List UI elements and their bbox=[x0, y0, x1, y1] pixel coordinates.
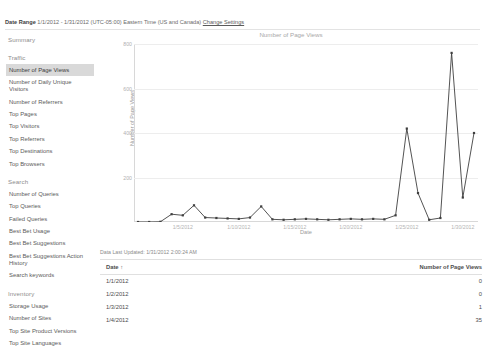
sidebar-item-top-referrers[interactable]: Top Referrers bbox=[6, 133, 94, 145]
chart-data-point[interactable] bbox=[249, 216, 251, 218]
chart-data-point[interactable] bbox=[271, 218, 273, 220]
sidebar-item-number-of-daily-unique-visitors[interactable]: Number of Daily Unique Visitors bbox=[6, 76, 94, 96]
column-header-page-views[interactable]: Number of Page Views bbox=[396, 264, 482, 270]
sidebar-item-number-of-sites[interactable]: Number of Sites bbox=[6, 313, 94, 325]
chart-data-point[interactable] bbox=[283, 219, 285, 221]
page-views-table: Date ↑ Number of Page Views 1/1/201201/2… bbox=[100, 259, 482, 326]
sidebar-heading-summary: Summary bbox=[6, 33, 94, 46]
chart-data-point[interactable] bbox=[439, 217, 441, 219]
sidebar-item-best-bet-suggestions[interactable]: Best Bet Suggestions bbox=[6, 238, 94, 250]
chart-data-point[interactable] bbox=[350, 218, 352, 220]
cell-page-views: 0 bbox=[396, 291, 482, 297]
chart-data-point[interactable] bbox=[148, 221, 150, 222]
chart-title: Number of Page Views bbox=[100, 31, 482, 38]
chart-y-tick-label: 600 bbox=[108, 86, 132, 92]
sidebar-heading-traffic: Traffic bbox=[6, 51, 94, 64]
chart-data-point[interactable] bbox=[361, 218, 363, 220]
date-range-bar: Date Range 1/1/2012 - 1/31/2012 (UTC-05:… bbox=[5, 16, 480, 29]
sidebar-item-top-destinations[interactable]: Top Destinations bbox=[6, 146, 94, 158]
chart-data-point[interactable] bbox=[473, 132, 475, 134]
sidebar-item-number-of-referrers[interactable]: Number of Referrers bbox=[6, 96, 94, 108]
chart-line bbox=[138, 53, 474, 222]
chart-data-point[interactable] bbox=[171, 213, 173, 215]
sidebar-item-best-bet-suggestions-action-history[interactable]: Best Bet Suggestions Action History bbox=[6, 250, 94, 270]
sidebar-item-search-keywords[interactable]: Search keywords bbox=[6, 270, 94, 282]
sidebar-item-best-bet-usage[interactable]: Best Bet Usage bbox=[6, 226, 94, 238]
chart-data-point[interactable] bbox=[137, 221, 139, 222]
sidebar-item-top-queries[interactable]: Top Queries bbox=[6, 201, 94, 213]
chart-data-point[interactable] bbox=[238, 218, 240, 220]
table-body: 1/1/201201/2/201201/3/201211/4/201235 bbox=[100, 275, 482, 326]
cell-date: 1/4/2012 bbox=[100, 317, 396, 323]
chart-data-point[interactable] bbox=[294, 218, 296, 220]
date-range-label: Date Range bbox=[5, 19, 36, 25]
data-last-updated: Data Last Updated: 1/31/2012 2:00:24 AM bbox=[100, 249, 197, 255]
sidebar-item-failed-queries[interactable]: Failed Queries bbox=[6, 213, 94, 225]
sidebar-item-number-of-page-views[interactable]: Number of Page Views bbox=[6, 64, 94, 76]
change-settings-link[interactable]: Change Settings bbox=[203, 19, 244, 25]
chart-data-point[interactable] bbox=[316, 218, 318, 220]
cell-date: 1/3/2012 bbox=[100, 304, 396, 310]
chart-series-page-views bbox=[134, 44, 478, 222]
chart-plot-area: 2004006008001/5/20121/10/20121/15/20121/… bbox=[134, 44, 478, 222]
header-divider bbox=[5, 29, 480, 30]
chart-data-point[interactable] bbox=[462, 196, 464, 198]
sidebar-heading-inventory: Inventory bbox=[6, 287, 94, 300]
sidebar-item-top-site-languages[interactable]: Top Site Languages bbox=[6, 337, 94, 349]
chart-data-point[interactable] bbox=[215, 217, 217, 219]
chart-y-tick-label: 400 bbox=[108, 130, 132, 136]
chart-data-point[interactable] bbox=[372, 218, 374, 220]
chart-data-point[interactable] bbox=[406, 127, 408, 129]
cell-page-views: 0 bbox=[396, 278, 482, 284]
sidebar-item-top-pages[interactable]: Top Pages bbox=[6, 108, 94, 120]
chart-x-axis-label: Date bbox=[134, 229, 478, 235]
cell-date: 1/1/2012 bbox=[100, 278, 396, 284]
chart-data-point[interactable] bbox=[417, 192, 419, 194]
column-header-date[interactable]: Date ↑ bbox=[100, 264, 396, 270]
page-views-chart: Number of Page Views Number of Page View… bbox=[100, 31, 482, 243]
chart-data-point[interactable] bbox=[395, 214, 397, 216]
table-row: 1/2/20120 bbox=[100, 288, 482, 301]
chart-data-point[interactable] bbox=[260, 205, 262, 207]
sidebar-item-number-of-queries[interactable]: Number of Queries bbox=[6, 188, 94, 200]
cell-date: 1/2/2012 bbox=[100, 291, 396, 297]
chart-data-point[interactable] bbox=[451, 52, 453, 54]
sidebar-nav: SummaryTrafficNumber of Page ViewsNumber… bbox=[6, 33, 94, 350]
chart-y-tick-label: 200 bbox=[108, 175, 132, 181]
chart-y-tick-label: 800 bbox=[108, 41, 132, 47]
table-row: 1/1/20120 bbox=[100, 275, 482, 288]
chart-data-point[interactable] bbox=[327, 219, 329, 221]
chart-data-point[interactable] bbox=[383, 218, 385, 220]
sidebar-item-top-browsers[interactable]: Top Browsers bbox=[6, 158, 94, 170]
table-header-row: Date ↑ Number of Page Views bbox=[100, 260, 482, 274]
chart-data-point[interactable] bbox=[339, 218, 341, 220]
table-row: 1/3/20121 bbox=[100, 301, 482, 314]
chart-data-point[interactable] bbox=[193, 204, 195, 206]
sidebar-item-storage-usage[interactable]: Storage Usage bbox=[6, 300, 94, 312]
chart-data-point[interactable] bbox=[305, 218, 307, 220]
sidebar-item-top-site-product-versions[interactable]: Top Site Product Versions bbox=[6, 325, 94, 337]
date-range-value: 1/1/2012 - 1/31/2012 (UTC-05:00) Eastern… bbox=[37, 19, 201, 25]
chart-data-point[interactable] bbox=[159, 221, 161, 222]
chart-data-point[interactable] bbox=[204, 216, 206, 218]
sidebar-heading-search: Search bbox=[6, 175, 94, 188]
table-row: 1/4/201235 bbox=[100, 313, 482, 326]
chart-data-point[interactable] bbox=[428, 219, 430, 221]
chart-data-point[interactable] bbox=[182, 214, 184, 216]
chart-data-point[interactable] bbox=[227, 217, 229, 219]
cell-page-views: 35 bbox=[396, 317, 482, 323]
cell-page-views: 1 bbox=[396, 304, 482, 310]
sidebar-item-top-visitors[interactable]: Top Visitors bbox=[6, 121, 94, 133]
